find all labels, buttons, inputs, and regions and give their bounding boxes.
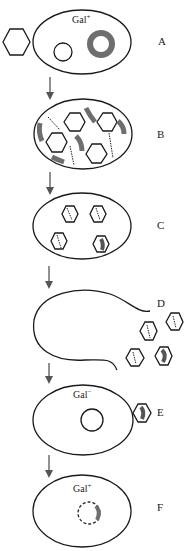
stage-label-b: B xyxy=(157,128,164,140)
arrow-c-d xyxy=(45,266,53,289)
prophage-circle xyxy=(54,43,72,61)
arrow-a-b xyxy=(46,77,54,100)
stage-f: Gal+ F xyxy=(33,475,163,547)
stage-label-d: D xyxy=(157,297,165,309)
lysed-cell-d xyxy=(34,290,150,370)
chromosome-circle-e xyxy=(81,409,103,431)
stage-b: B xyxy=(34,99,164,169)
arrow-b-c xyxy=(46,172,54,195)
stage-label-c: C xyxy=(157,219,164,231)
stage-label-e: E xyxy=(157,406,164,418)
phage-hexagon-icon xyxy=(3,29,30,55)
gal-ring xyxy=(90,33,112,55)
cell-c xyxy=(33,193,131,259)
gal-minus-label-e: Gal− xyxy=(73,388,91,400)
stage-a: Gal+ A xyxy=(3,10,166,74)
gal-plus-label-a: Gal+ xyxy=(72,13,90,25)
stage-d: D xyxy=(34,290,183,370)
stage-label-a: A xyxy=(158,35,166,47)
stage-e: Gal− E xyxy=(33,385,164,455)
stage-label-f: F xyxy=(157,501,163,513)
transduction-diagram: Gal+ A B xyxy=(0,0,190,551)
infected-cell-b xyxy=(34,99,132,169)
arrow-d-e xyxy=(45,363,53,384)
arrow-e-f xyxy=(45,455,53,478)
stage-c: C xyxy=(33,193,164,259)
gal-plus-label-f: Gal+ xyxy=(73,482,91,494)
integrated-chromosome-f xyxy=(78,502,100,524)
